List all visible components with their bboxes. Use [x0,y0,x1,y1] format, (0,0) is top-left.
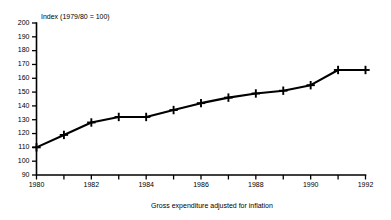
y-tick-label: 120 [18,129,30,136]
y-tick-label: 200 [18,19,30,26]
chart-container: 90100110120130140150160170180190200 1980… [0,0,391,220]
line-chart: 90100110120130140150160170180190200 1980… [0,0,391,220]
y-tick-label: 160 [18,74,30,81]
x-tick-label: 1986 [193,181,209,188]
y-tick-label: 140 [18,102,30,109]
x-tick-label: 1990 [303,181,319,188]
x-axis-caption: Gross expenditure adjusted for inflation [151,202,273,210]
x-tick-label: 1982 [84,181,100,188]
y-tick-label: 90 [22,171,30,178]
y-tick-label: 170 [18,60,30,67]
data-point-markers [32,66,369,152]
x-tick-label: 1988 [248,181,264,188]
x-tick-label: 1980 [29,181,45,188]
y-tick-label: 180 [18,46,30,53]
y-tick-label: 190 [18,33,30,40]
x-tick-label: 1992 [358,181,374,188]
x-tick-label: 1984 [138,181,154,188]
x-axis-tick-group: 1980198219841986198819901992 [29,175,374,188]
y-axis-title: Index (1979/80 = 100) [41,13,110,21]
y-axis-tick-group: 90100110120130140150160170180190200 [18,19,37,178]
y-tick-label: 150 [18,88,30,95]
data-line-series [37,70,366,147]
y-tick-label: 130 [18,116,30,123]
y-tick-label: 100 [18,157,30,164]
y-tick-label: 110 [18,143,29,150]
